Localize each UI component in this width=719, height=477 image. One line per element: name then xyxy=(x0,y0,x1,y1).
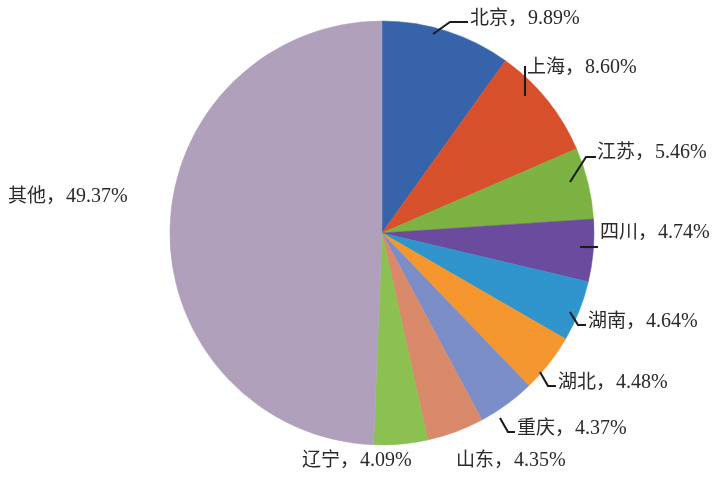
slice-sep-other: ， xyxy=(46,184,66,206)
leader-line-hubei xyxy=(540,372,556,386)
slice-name-chongqing: 重庆 xyxy=(517,416,555,438)
slice-sep-hunan: ， xyxy=(626,309,646,331)
slice-value-hunan: 4.64% xyxy=(646,309,698,331)
slice-name-sichuan: 四川 xyxy=(600,220,638,242)
slice-value-other: 49.37% xyxy=(66,184,128,206)
paper-texture-overlay xyxy=(170,21,594,445)
slice-name-shandong: 山东 xyxy=(456,448,494,470)
slice-label-jiangsu: 江苏，5.46% xyxy=(597,142,707,161)
slice-label-sichuan: 四川，4.74% xyxy=(600,222,710,241)
slice-name-shanghai: 上海 xyxy=(527,55,565,77)
slice-label-shandong: 山东，4.35% xyxy=(456,450,566,469)
slice-name-jiangsu: 江苏 xyxy=(597,140,635,162)
slice-label-hunan: 湖南，4.64% xyxy=(588,311,698,330)
slice-label-shanghai: 上海，8.60% xyxy=(527,57,637,76)
slice-value-liaoning: 4.09% xyxy=(360,448,412,470)
slice-label-beijing: 北京，9.89% xyxy=(470,8,580,27)
slice-sep-sichuan: ， xyxy=(638,220,658,242)
slice-name-hunan: 湖南 xyxy=(588,309,626,331)
slice-label-other: 其他，49.37% xyxy=(8,186,128,205)
slice-label-liaoning: 辽宁，4.09% xyxy=(302,450,412,469)
slice-name-beijing: 北京 xyxy=(470,6,508,28)
slice-value-jiangsu: 5.46% xyxy=(655,140,707,162)
slice-sep-chongqing: ， xyxy=(555,416,575,438)
slice-value-shandong: 4.35% xyxy=(514,448,566,470)
slice-value-beijing: 9.89% xyxy=(528,6,580,28)
slice-sep-shanghai: ， xyxy=(565,55,585,77)
slice-label-chongqing: 重庆，4.37% xyxy=(517,418,627,437)
slice-value-chongqing: 4.37% xyxy=(575,416,627,438)
slice-label-hubei: 湖北，4.48% xyxy=(558,372,668,391)
slice-value-sichuan: 4.74% xyxy=(658,220,710,242)
leader-line-chongqing xyxy=(500,418,515,432)
slice-name-hubei: 湖北 xyxy=(558,370,596,392)
slice-sep-jiangsu: ， xyxy=(635,140,655,162)
pie-chart: 北京，9.89% 上海，8.60% 江苏，5.46% 四川，4.74% 湖南，4… xyxy=(0,0,719,477)
slice-name-liaoning: 辽宁 xyxy=(302,448,340,470)
slice-name-other: 其他 xyxy=(8,184,46,206)
slice-value-shanghai: 8.60% xyxy=(585,55,637,77)
slice-sep-beijing: ， xyxy=(508,6,528,28)
slice-sep-hubei: ， xyxy=(596,370,616,392)
slice-sep-shandong: ， xyxy=(494,448,514,470)
slice-sep-liaoning: ， xyxy=(340,448,360,470)
slice-value-hubei: 4.48% xyxy=(616,370,668,392)
